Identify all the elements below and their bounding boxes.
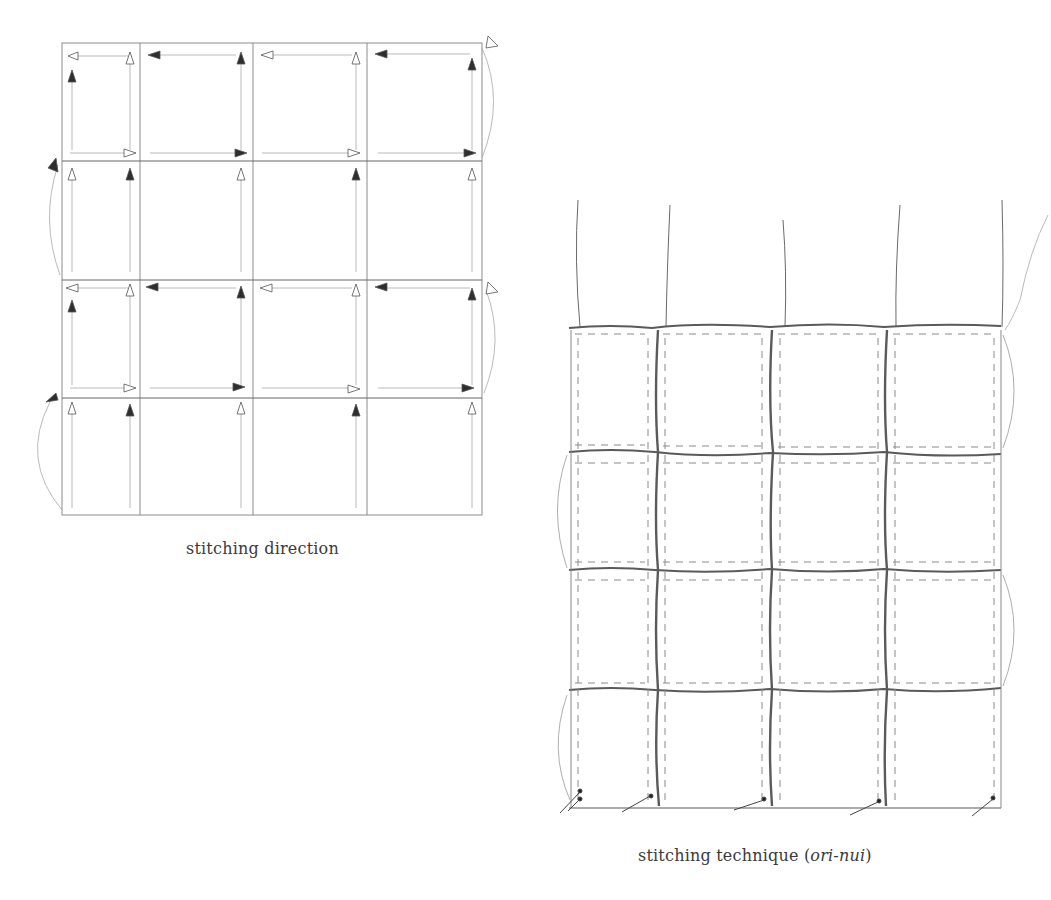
arrow-up-filled-icon [68,300,76,312]
arrow-right-filled-icon [233,383,245,391]
technique-needles [560,789,995,816]
arrow-up-filled-icon [237,286,245,298]
direction-arrow-lines [38,48,496,510]
arrow-up-filled-icon [126,404,134,416]
arrow-hollow-icon [486,36,498,48]
caption-suffix: ) [865,846,871,865]
arrow-up-filled-icon [126,168,134,180]
arrow-right-filled-icon [464,149,476,157]
arrow-left-filled-icon [375,283,387,291]
caption-italic-term: ori-nui [810,846,865,865]
arrow-left-hollow-icon [68,52,78,60]
arrow-filled-icon [48,158,58,172]
arrow-up-hollow-icon [352,284,360,296]
arrow-left-hollow-icon [66,284,78,292]
arrow-up-hollow-icon [126,284,134,296]
arrow-right-hollow-icon [348,149,360,157]
caption-stitching-direction: stitching direction [186,539,339,558]
arrow-up-filled-icon [237,52,245,64]
arrow-up-filled-icon [352,404,360,416]
arrow-up-hollow-icon [68,402,76,414]
arrow-up-hollow-icon [468,168,476,180]
technique-seams [569,325,1001,809]
direction-grid [62,43,482,515]
arrow-hollow-icon [486,282,498,294]
arrow-right-filled-icon [235,149,247,157]
arrow-up-hollow-icon [468,402,476,414]
direction-arrowheads [46,36,498,416]
caption-prefix: stitching technique ( [638,846,810,865]
arrow-left-filled-icon [375,50,387,58]
arrow-right-hollow-icon [124,384,136,392]
arrow-up-hollow-icon [237,168,245,180]
arrow-up-filled-icon [468,58,476,70]
arrow-filled-icon [46,393,58,402]
arrow-up-hollow-icon [68,168,76,180]
stitching-diagram-canvas [0,0,1051,900]
arrow-up-hollow-icon [126,52,134,64]
arrow-up-hollow-icon [352,52,360,64]
arrow-right-filled-icon [462,384,474,392]
arrow-right-hollow-icon [348,385,360,393]
arrow-up-filled-icon [68,70,76,82]
arrow-left-filled-icon [146,283,158,291]
arrow-up-hollow-icon [237,402,245,414]
arrow-up-filled-icon [468,288,476,300]
arrow-up-filled-icon [352,168,360,180]
arrow-left-filled-icon [148,51,160,59]
technique-hanging-threads [576,200,1048,330]
arrow-left-hollow-icon [260,284,272,292]
arrow-right-hollow-icon [124,149,136,157]
arrow-left-hollow-icon [261,51,273,59]
technique-dashed-stitches [575,334,995,800]
caption-stitching-technique: stitching technique (ori-nui) [638,846,872,865]
